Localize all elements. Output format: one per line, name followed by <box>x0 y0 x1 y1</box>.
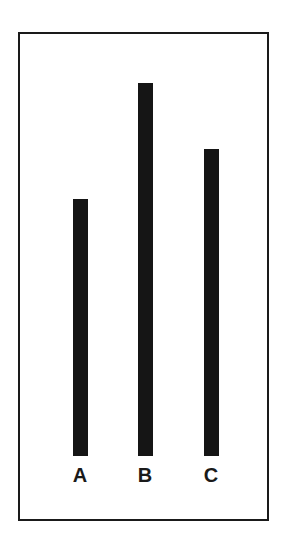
bar-b <box>138 83 153 456</box>
bar-chart: A B C <box>0 0 282 540</box>
bar-label-c: C <box>196 465 226 485</box>
bar-label-b: B <box>130 465 160 485</box>
bar-a <box>73 199 88 456</box>
bar-label-a: A <box>65 465 95 485</box>
bar-c <box>204 149 219 456</box>
